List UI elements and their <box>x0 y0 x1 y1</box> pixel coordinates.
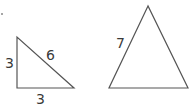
isosceles-triangle-left-side-label: 7 <box>116 35 125 51</box>
isosceles-triangle: 7 <box>109 6 188 88</box>
right-triangle-hypotenuse-label: 6 <box>46 47 55 63</box>
right-triangle-left-side-label: 3 <box>5 55 14 71</box>
triangles-diagram: 3 6 3 7 <box>0 0 192 108</box>
right-triangle: 3 6 3 <box>5 37 74 107</box>
right-triangle-bottom-side-label: 3 <box>36 91 45 107</box>
stray-dot <box>1 13 3 15</box>
